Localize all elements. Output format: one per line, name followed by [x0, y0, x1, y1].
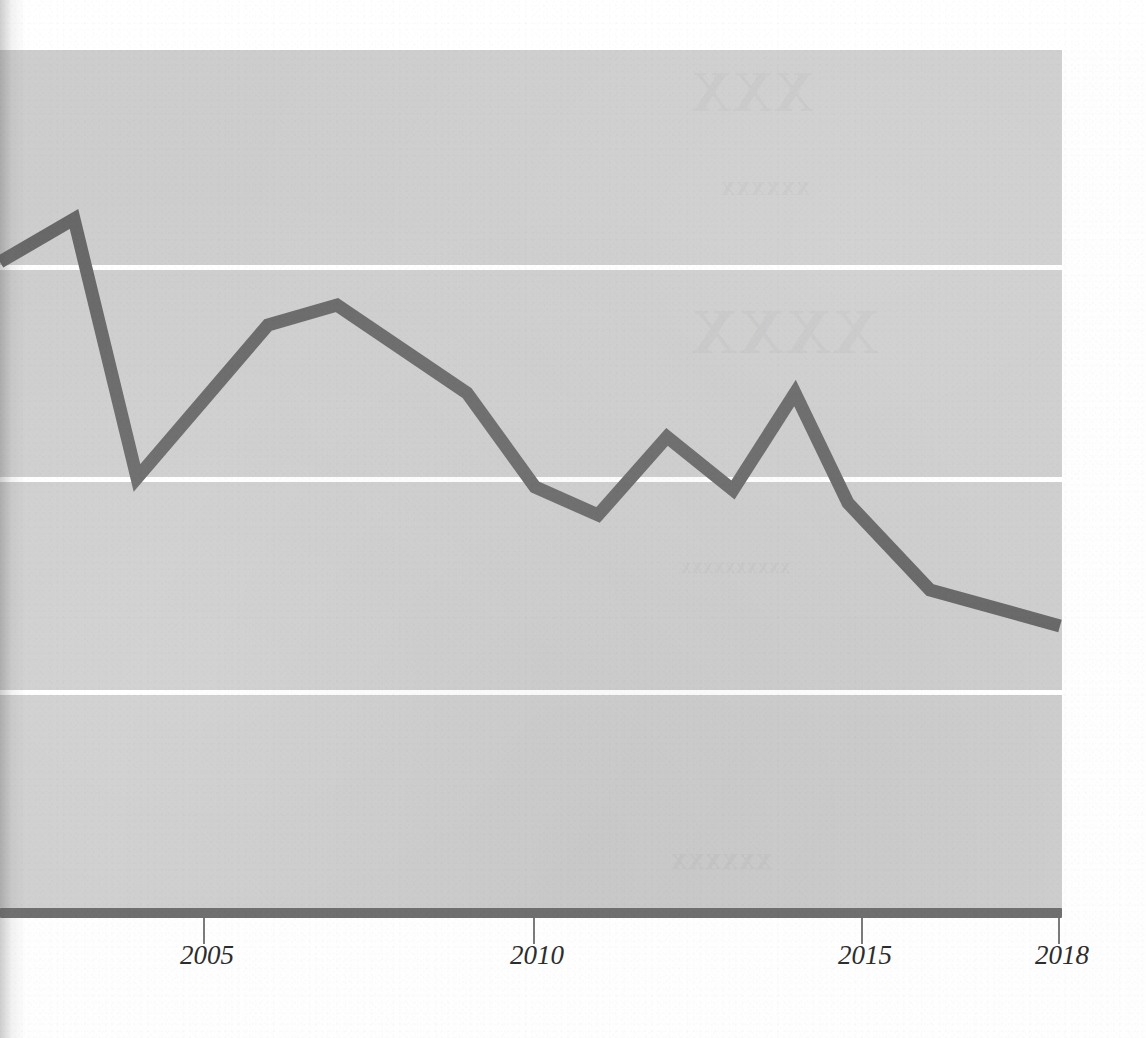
plot-area: XXX xxxxxx XXXX xxxxxxxxxx xxxxxx	[0, 50, 1062, 913]
chart-page: XXX xxxxxx XXXX xxxxxxxxxx xxxxxx 2005 2…	[0, 0, 1146, 1038]
data-line-series	[0, 50, 1062, 913]
x-tick-label-2010: 2010	[510, 940, 564, 971]
series-polyline	[0, 219, 1060, 626]
page-top-margin	[0, 0, 1146, 50]
x-tick-label-2018: 2018	[1035, 940, 1089, 971]
x-axis-line	[0, 908, 1062, 918]
x-tick-label-2015: 2015	[838, 940, 892, 971]
x-tick-label-2005: 2005	[180, 940, 234, 971]
